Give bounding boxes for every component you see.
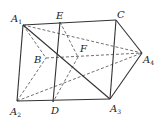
- geometry-figure: A1ECA4FBA2DA3: [0, 0, 160, 120]
- label-d: D: [50, 105, 59, 116]
- edge-c-a3: [110, 20, 116, 99]
- label-a2: A2: [9, 106, 21, 118]
- edge-a2-a3: [17, 99, 110, 101]
- edge-a1-a2: [17, 25, 23, 101]
- edge-e-d: [53, 22, 60, 102]
- edge-c-a4: [116, 20, 142, 53]
- edge-e-f: [60, 22, 78, 57]
- label-a4: A4: [142, 54, 154, 66]
- label-b: B: [33, 54, 41, 65]
- edge-a1-c: [23, 20, 116, 25]
- label-f: F: [79, 43, 88, 54]
- edge-a2-b: [17, 58, 46, 101]
- label-e: E: [55, 10, 64, 21]
- label-a3: A3: [109, 103, 121, 115]
- label-c: C: [117, 9, 125, 20]
- edge-b-a4: [46, 53, 142, 58]
- label-a1: A1: [10, 13, 22, 25]
- point-labels: A1ECA4FBA2DA3: [9, 9, 154, 118]
- edge-a3-a4: [110, 53, 142, 99]
